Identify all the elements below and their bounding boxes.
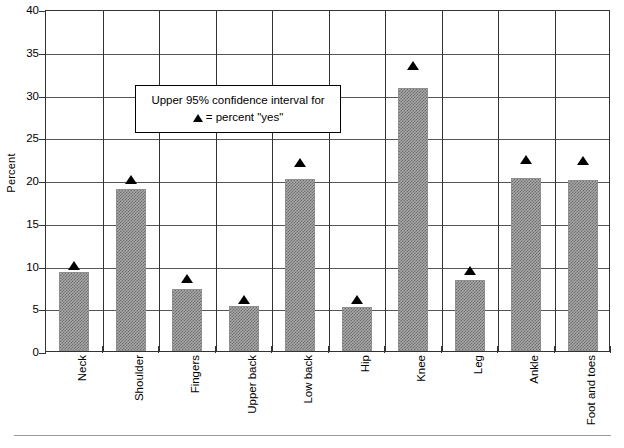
- x-tick-mark: [610, 346, 611, 353]
- ci-marker: [294, 158, 306, 167]
- category-divider: [385, 11, 386, 351]
- gridline: [46, 139, 609, 140]
- x-tick-mark: [441, 346, 442, 353]
- y-tick-mark: [39, 139, 46, 140]
- x-axis-category: Leg: [441, 353, 498, 433]
- bottom-rule: [14, 435, 611, 436]
- y-tick-label: 40: [26, 5, 39, 17]
- x-axis-category: Low back: [271, 353, 328, 433]
- x-tick-label: Shoulder: [134, 355, 146, 401]
- x-tick-mark: [328, 346, 329, 353]
- x-axis-category: Hip: [328, 353, 385, 433]
- ci-marker: [181, 274, 193, 283]
- y-tick-mark: [39, 11, 46, 12]
- x-tick-label: Fingers: [190, 355, 202, 393]
- x-tick-label: Foot and toes: [586, 355, 598, 425]
- category-divider: [272, 11, 273, 351]
- x-tick-mark: [554, 346, 555, 353]
- x-axis-labels: NeckShoulderFingersUpper backLow backHip…: [45, 353, 610, 433]
- x-tick-label: Hip: [360, 355, 372, 372]
- y-tick-mark: [39, 310, 46, 311]
- bar: [455, 280, 485, 351]
- y-tick-mark: [39, 225, 46, 226]
- x-tick-label: Upper back: [247, 355, 259, 414]
- y-tick-label: 10: [26, 262, 39, 274]
- legend-box: Upper 95% confidence interval for = perc…: [135, 85, 341, 133]
- ci-marker: [520, 155, 532, 164]
- x-tick-mark: [158, 346, 159, 353]
- ci-marker: [577, 156, 589, 165]
- ci-marker: [68, 261, 80, 270]
- x-axis-category: Foot and toes: [554, 353, 611, 433]
- legend-line-1: Upper 95% confidence interval for: [151, 94, 324, 106]
- legend-line-2-text: = percent "yes": [206, 111, 284, 123]
- x-tick-mark: [45, 346, 46, 353]
- ci-marker: [351, 295, 363, 304]
- ci-marker: [464, 266, 476, 275]
- x-axis-end: [610, 353, 611, 433]
- x-axis-category: Knee: [384, 353, 441, 433]
- x-axis-category: Ankle: [497, 353, 554, 433]
- x-tick-mark: [102, 346, 103, 353]
- y-tick-label: 35: [26, 48, 39, 60]
- category-divider: [159, 11, 160, 351]
- x-tick-mark: [271, 346, 272, 353]
- x-tick-label: Knee: [416, 355, 428, 382]
- y-axis-label: Percent: [2, 128, 20, 218]
- bar: [285, 179, 315, 351]
- y-tick-mark: [39, 268, 46, 269]
- x-axis-category: Neck: [45, 353, 102, 433]
- category-divider: [216, 11, 217, 351]
- x-tick-label: Leg: [473, 355, 485, 374]
- bar: [511, 178, 541, 351]
- x-axis-category: Upper back: [215, 353, 272, 433]
- x-axis-category: Shoulder: [102, 353, 159, 433]
- x-axis-category: Fingers: [158, 353, 215, 433]
- category-divider: [498, 11, 499, 351]
- y-tick-mark: [39, 182, 46, 183]
- bar: [59, 272, 89, 351]
- bar: [398, 88, 428, 351]
- bar: [229, 306, 259, 351]
- bar: [568, 180, 598, 351]
- ci-marker: [238, 295, 250, 304]
- bar: [172, 289, 202, 351]
- x-tick-label: Ankle: [529, 355, 541, 384]
- x-tick-mark: [215, 346, 216, 353]
- y-tick-label: 15: [26, 219, 39, 231]
- ci-marker: [125, 175, 137, 184]
- gridline: [46, 54, 609, 55]
- triangle-marker-icon: [193, 114, 203, 122]
- x-tick-mark: [497, 346, 498, 353]
- category-divider: [442, 11, 443, 351]
- plot-area: 0510152025303540 Upper 95% confidence in…: [45, 10, 610, 352]
- category-divider: [103, 11, 104, 351]
- y-tick-label: 30: [26, 91, 39, 103]
- bar: [116, 189, 146, 351]
- chart-page: Percent 0510152025303540 Upper 95% confi…: [0, 0, 624, 448]
- x-tick-label: Low back: [303, 355, 315, 404]
- y-tick-mark: [39, 97, 46, 98]
- ci-marker: [407, 61, 419, 70]
- y-tick-mark: [39, 54, 46, 55]
- y-tick-label: 20: [26, 176, 39, 188]
- category-divider: [329, 11, 330, 351]
- bar: [342, 307, 372, 351]
- category-divider: [555, 11, 556, 351]
- y-tick-label: 25: [26, 134, 39, 146]
- x-tick-mark: [384, 346, 385, 353]
- legend-line-2: = percent "yes": [140, 109, 336, 126]
- x-tick-label: Neck: [77, 355, 89, 381]
